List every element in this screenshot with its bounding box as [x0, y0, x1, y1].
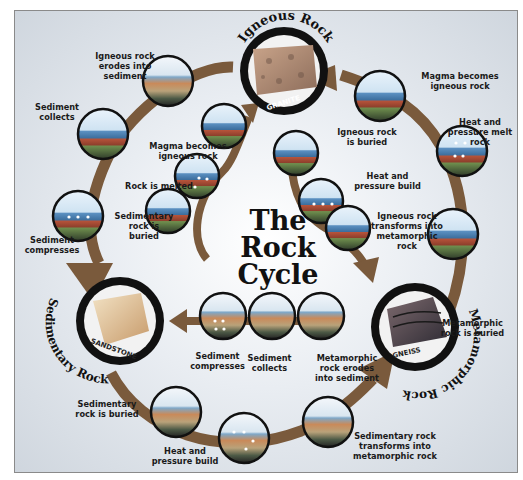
label-sediment-collects-inner: Sediment collects	[237, 353, 302, 373]
label-rock-melted: Rock is melted	[119, 181, 199, 191]
label-sedimentary-buried-inner: Sedimentary rock is buried	[109, 211, 179, 241]
arrow-head-inner-down	[353, 257, 379, 283]
diagram-title: The Rock Cycle	[213, 207, 343, 288]
label-heat-pressure-melt: Heat and pressure melt rock	[445, 117, 515, 147]
label-igneous-erodes: Igneous rock erodes into sediment	[85, 51, 165, 81]
label-igneous-buried: Igneous rock is buried	[327, 127, 407, 147]
label-metamorphic-erodes: Metamorphic rock erodes into sediment	[307, 353, 387, 383]
label-magma-becomes-outer: Magma becomes igneous rock	[415, 71, 505, 91]
label-sediment-compresses: Sediment compresses	[17, 235, 87, 255]
label-heat-pressure-build-inner: Heat and pressure build	[350, 171, 425, 191]
label-heat-pressure-build: Heat and pressure build	[145, 446, 225, 466]
arrow-head-inner-left	[169, 309, 187, 333]
label-igneous-transforms: Igneous rock transforms into metamorphic…	[367, 211, 447, 251]
label-magma-becomes-inner: Magma becomes igneous rock	[143, 141, 233, 161]
rock-cycle-diagram: Igneous Rock Sedimentary Rock Metamorphi…	[14, 10, 518, 473]
label-sediment-collects: Sediment collects	[27, 102, 87, 122]
label-metamorphic-buried: Metamorphic rock is buried	[435, 318, 510, 338]
label-sedimentary-transforms: Sedimentary rock transforms into metamor…	[345, 431, 445, 461]
label-sedimentary-buried: Sedimentary rock is buried	[67, 399, 147, 419]
